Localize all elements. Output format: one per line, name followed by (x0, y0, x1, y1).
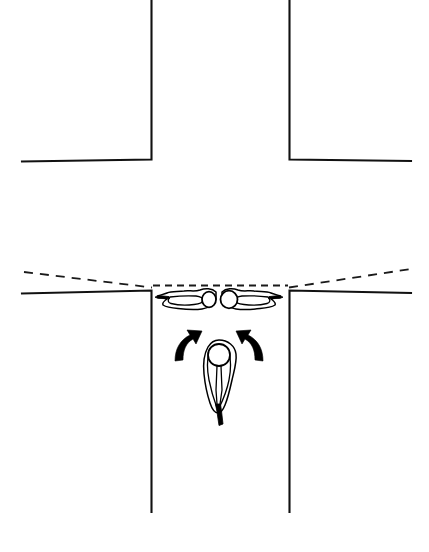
prone-soldier-facing-left (155, 289, 216, 310)
prone-soldier-facing-right (221, 289, 284, 310)
movement-arrow-to-left-position (175, 330, 202, 361)
prone-left-head (202, 292, 216, 308)
upper-right-block-corner (290, 0, 412, 161)
diagram-canvas (0, 0, 429, 552)
road-outlines (22, 0, 411, 512)
prone-right-head (221, 291, 238, 309)
upper-left-block-corner (22, 0, 152, 162)
crouch-torso-line (216, 366, 217, 404)
far-curb-dashed-right (289, 269, 411, 288)
lower-left-block-corner (22, 291, 152, 513)
far-curb-dashed-left (24, 272, 152, 288)
crouch-head (208, 344, 230, 366)
movement-arrow-to-right-position (236, 330, 263, 361)
tactical-diagram-figure (0, 0, 429, 552)
crouching-soldier-rear-security (204, 340, 237, 426)
lower-right-block-corner (290, 291, 412, 513)
